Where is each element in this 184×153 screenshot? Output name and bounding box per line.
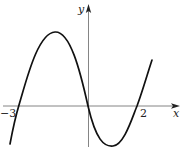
cubic-curve xyxy=(10,32,152,146)
cubic-function-graph: y x −3 2 xyxy=(0,0,184,153)
tick-label-neg3: −3 xyxy=(0,107,16,120)
y-axis-label: y xyxy=(77,3,85,16)
tick-label-2: 2 xyxy=(140,107,147,120)
x-axis-label: x xyxy=(173,107,180,120)
